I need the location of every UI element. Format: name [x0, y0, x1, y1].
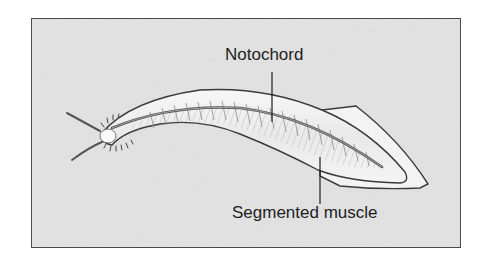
segmented-muscle-label: Segmented muscle	[232, 203, 378, 223]
lancelet-illustration	[0, 0, 492, 268]
oral-cirri	[67, 113, 104, 160]
lancelet-body	[102, 89, 407, 183]
head	[100, 129, 116, 143]
notochord-label: Notochord	[225, 45, 303, 65]
